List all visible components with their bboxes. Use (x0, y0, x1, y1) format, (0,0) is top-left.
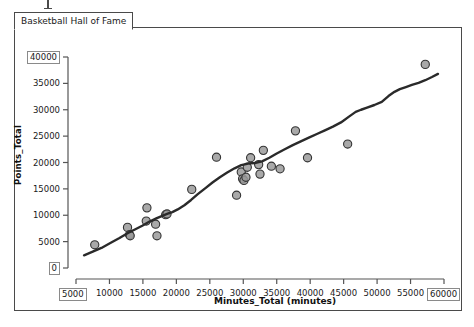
x-axis-tick-label: 20000 (161, 288, 191, 298)
y-axis-tick-label: 35000 (33, 78, 60, 88)
x-axis-tick-label: 50000 (362, 288, 392, 298)
y-axis-tick-label: 30000 (33, 105, 60, 115)
y-axis-tick-label: 5000 (38, 237, 60, 247)
y-axis-title: Points_Total (13, 117, 23, 193)
x-axis-tick-label: 15000 (128, 288, 158, 298)
x-axis-tick-label: 35000 (262, 288, 292, 298)
chart-window: Basketball Hall of Fame Points_Total Min… (0, 0, 474, 327)
text-cursor-artifact (47, 0, 49, 9)
x-axis-tick-label: 55000 (396, 288, 426, 298)
y-axis-tick-label: 25000 (33, 131, 60, 141)
x-axis-tick-label: 40000 (295, 288, 325, 298)
tab-label: Basketball Hall of Fame (21, 16, 126, 26)
x-axis-extreme-label[interactable]: 5000 (59, 288, 87, 301)
x-axis-tick-label: 30000 (228, 288, 258, 298)
tab-basketball-hall-of-fame[interactable]: Basketball Hall of Fame (14, 12, 133, 30)
y-axis-extreme-label[interactable]: 40000 (27, 51, 60, 64)
y-axis-tick-label: 10000 (33, 210, 60, 220)
x-axis-tick-label: 45000 (329, 288, 359, 298)
y-axis-tick-label: 20000 (33, 158, 60, 168)
y-axis-tick-label: 15000 (33, 184, 60, 194)
x-axis-tick-label: 10000 (94, 288, 124, 298)
chart-panel (14, 27, 462, 311)
x-axis-tick-label: 25000 (195, 288, 225, 298)
x-axis-extreme-label[interactable]: 60000 (427, 288, 460, 301)
y-axis-extreme-label[interactable]: 0 (49, 262, 60, 275)
